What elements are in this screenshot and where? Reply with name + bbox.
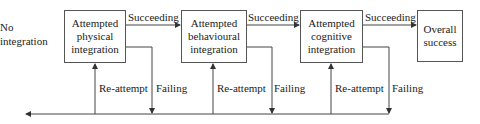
succeeding-label-3: Succeeding	[365, 11, 416, 23]
start-label-line-2: integration	[0, 34, 48, 48]
reattempt-label-2: Re-attempt	[217, 82, 266, 94]
overall-success-box: Overall success	[417, 10, 463, 62]
stage-behavioural-box: Attempted behavioural integration	[181, 10, 247, 63]
stage-physical-line-3: integration	[71, 43, 119, 56]
stage-behavioural-line-3: integration	[188, 43, 240, 56]
stage-behavioural-line-2: behavioural	[188, 30, 240, 43]
failing-label-1: Failing	[156, 82, 187, 94]
failing-label-2: Failing	[274, 82, 305, 94]
stage-physical-line-2: physical	[71, 30, 119, 43]
succeeding-label-2: Succeeding	[248, 11, 299, 23]
reattempt-label-1: Re-attempt	[99, 82, 148, 94]
succeeding-label-1: Succeeding	[128, 11, 179, 23]
start-label: No integration	[0, 20, 48, 48]
stage-physical-line-1: Attempted	[71, 17, 119, 30]
start-label-line-1: No	[0, 20, 48, 34]
overall-success-line-2: success	[424, 36, 457, 49]
stage-cognitive-line-3: integration	[308, 43, 356, 56]
stage-cognitive-line-2: cognitive	[308, 30, 356, 43]
stage-behavioural-line-1: Attempted	[188, 17, 240, 30]
stage-cognitive-line-1: Attempted	[308, 17, 356, 30]
stage-cognitive-box: Attempted cognitive integration	[300, 10, 363, 63]
reattempt-label-3: Re-attempt	[335, 82, 384, 94]
overall-success-line-1: Overall	[424, 23, 457, 36]
failing-label-3: Failing	[392, 82, 423, 94]
stage-physical-box: Attempted physical integration	[64, 10, 126, 63]
